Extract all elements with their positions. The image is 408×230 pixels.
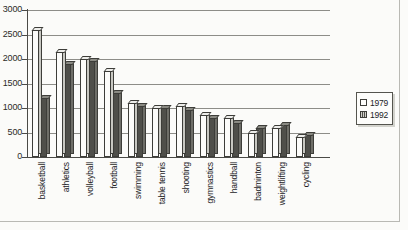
- bar-face: [296, 137, 303, 157]
- chart-page: 050010001500200025003000 basketballathle…: [0, 0, 408, 230]
- bar-side: [183, 103, 186, 154]
- x-axis-label-swimming: swimming: [133, 162, 143, 199]
- bar-face: [224, 118, 231, 157]
- bar-side: [263, 125, 266, 154]
- bar-side: [287, 122, 290, 154]
- legend-swatch-1979: [360, 99, 367, 106]
- axis-baseline: [28, 157, 330, 158]
- bar-1979-table-tennis: [152, 108, 159, 157]
- bar-group: [296, 10, 320, 157]
- y-axis-tick: [22, 157, 27, 158]
- bar-group: [224, 10, 248, 157]
- x-axis-label-athletics: athletics: [61, 162, 71, 192]
- legend-item-1992: 1992: [360, 109, 388, 120]
- y-axis-tick-label: 1000: [3, 102, 22, 112]
- bar-group: [176, 10, 200, 157]
- x-axis-label-cycling: cycling: [301, 162, 311, 187]
- bar-face: [152, 108, 159, 157]
- y-axis-tick-label: 2500: [3, 29, 22, 39]
- bar-1979-handball: [224, 118, 231, 157]
- bar-side: [119, 90, 122, 154]
- bar-face: [56, 52, 63, 157]
- y-axis-tick: [22, 84, 27, 85]
- bar-1979-cycling: [296, 137, 303, 157]
- bar-1979-football: [104, 71, 111, 157]
- bar-1979-weightlifting: [272, 128, 279, 157]
- bar-face: [200, 115, 207, 157]
- y-axis-tick: [22, 108, 27, 109]
- bar-face: [176, 106, 183, 157]
- bar-side: [111, 68, 114, 154]
- bar-group: [152, 10, 176, 157]
- y-axis-tick-label: 2000: [3, 53, 22, 63]
- x-axis-label-shooting: shooting: [181, 162, 191, 193]
- bar-face: [248, 133, 255, 158]
- x-axis-label-table-tennis: table tennis: [157, 162, 167, 204]
- bar-group: [32, 10, 56, 157]
- x-axis-label-basketball: basketball: [37, 162, 47, 199]
- bar-1979-swimming: [128, 103, 135, 157]
- legend-label-1992: 1992: [370, 110, 388, 120]
- x-axis-label-volleyball: volleyball: [85, 162, 95, 196]
- bar-1979-basketball: [32, 30, 39, 157]
- x-axis-label-weightlifting: weightlifting: [277, 162, 287, 205]
- x-axis-label-handball: handball: [229, 162, 239, 193]
- bar-1979-athletics: [56, 52, 63, 157]
- bar-side: [87, 56, 90, 154]
- y-axis-tick: [22, 59, 27, 60]
- bar-side: [159, 105, 162, 154]
- y-axis-tick: [22, 35, 27, 36]
- bar-face: [128, 103, 135, 157]
- bar-side: [191, 107, 194, 154]
- bar-side: [231, 115, 234, 154]
- legend-item-1979: 1979: [360, 97, 388, 108]
- bar-side: [279, 125, 282, 154]
- bar-1979-gymnastics: [200, 115, 207, 157]
- bar-side: [71, 61, 74, 154]
- y-axis-tick: [22, 10, 27, 11]
- bar-group: [128, 10, 152, 157]
- bar-group: [80, 10, 104, 157]
- bar-face: [80, 59, 87, 157]
- legend-swatch-1992: [360, 111, 367, 118]
- x-axis-label-badminton: badminton: [253, 162, 263, 201]
- bar-1979-badminton: [248, 133, 255, 158]
- y-axis-tick-label: 500: [8, 127, 22, 137]
- bar-group: [56, 10, 80, 157]
- plot-area: [28, 10, 330, 157]
- y-axis-tick-label: 1500: [3, 78, 22, 88]
- bar-side: [207, 112, 210, 154]
- bar-side: [39, 27, 42, 154]
- bar-side: [135, 100, 138, 154]
- bar-group: [200, 10, 224, 157]
- y-axis-tick-label: 3000: [3, 4, 22, 14]
- bar-1979-volleyball: [80, 59, 87, 157]
- bar-face: [272, 128, 279, 157]
- bar-side: [143, 103, 146, 154]
- x-axis-label-football: football: [109, 162, 119, 189]
- bar-1979-shooting: [176, 106, 183, 157]
- bar-group: [104, 10, 128, 157]
- bar-face: [32, 30, 39, 157]
- y-axis-tick-label: 0: [17, 151, 22, 161]
- y-axis-tick: [22, 133, 27, 134]
- bar-side: [47, 95, 50, 154]
- bar-side: [215, 115, 218, 154]
- bar-group: [248, 10, 272, 157]
- legend-label-1979: 1979: [370, 98, 388, 108]
- bar-side: [95, 58, 98, 154]
- legend: 19791992: [356, 92, 393, 125]
- bar-side: [63, 49, 66, 154]
- bar-group: [272, 10, 296, 157]
- bar-face: [104, 71, 111, 157]
- bar-side: [167, 105, 170, 154]
- x-axis-label-gymnastics: gymnastics: [205, 162, 215, 204]
- bar-side: [239, 120, 242, 154]
